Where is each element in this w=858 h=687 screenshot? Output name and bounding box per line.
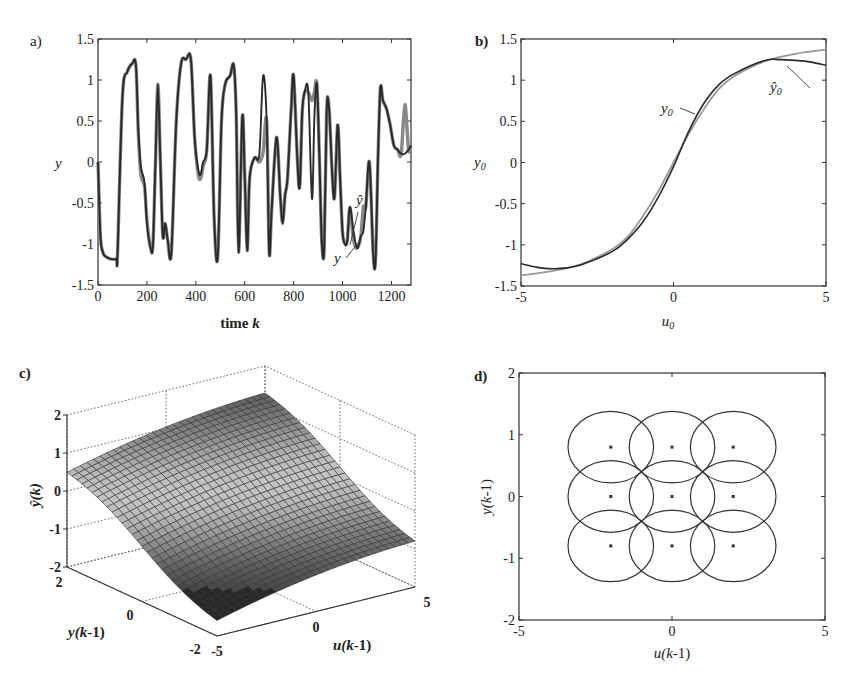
c-ylabel-pre: y( bbox=[66, 624, 81, 641]
z-tick-label: 1 bbox=[54, 446, 61, 461]
panel-a-y-tick-labels: 1.510.50-0.5-1-1.5 bbox=[72, 32, 94, 293]
annotation-y0-label: y0 bbox=[659, 100, 673, 118]
rbf-center-point bbox=[671, 495, 674, 498]
rbf-center-point bbox=[609, 495, 612, 498]
rbf-center-point bbox=[671, 446, 674, 449]
c-xlabel-pre: u( bbox=[333, 637, 347, 654]
y-tick-label: 1 bbox=[508, 428, 515, 443]
panel-d-y-tick-labels: 210-1-2 bbox=[503, 366, 515, 628]
annotation-yhat0-label: ŷ0 bbox=[768, 79, 782, 97]
y-tick-label: 2 bbox=[508, 366, 515, 381]
panel-d-label: d) bbox=[474, 368, 487, 385]
x-tick-label: 1200 bbox=[377, 289, 405, 304]
c-ylabel-suffix: -1) bbox=[87, 624, 105, 641]
u-tick-label: 5 bbox=[424, 595, 431, 610]
y-tick-label: 2 bbox=[56, 575, 63, 590]
y-tick-label: 1.5 bbox=[500, 32, 518, 47]
y-tick-label: -1 bbox=[82, 237, 94, 252]
x-tick-label: 0 bbox=[670, 290, 677, 305]
b-ylabel-base: y bbox=[472, 154, 481, 170]
z-tick-label: -1 bbox=[49, 522, 61, 537]
d-ylabel-suffix: -1) bbox=[478, 479, 495, 497]
y-tick-label: 0.5 bbox=[77, 114, 95, 129]
x-label-var: k bbox=[252, 315, 260, 331]
y-tick-label: 0 bbox=[87, 155, 94, 170]
y-tick-label: 0 bbox=[127, 608, 134, 623]
rbf-center-point bbox=[732, 544, 735, 547]
x-tick-label: 0 bbox=[669, 624, 676, 639]
rbf-center-point bbox=[671, 544, 674, 547]
d-xlabel-pre: u( bbox=[654, 645, 668, 662]
u-tick-label: -5 bbox=[211, 644, 223, 659]
x-tick-label: -5 bbox=[513, 624, 525, 639]
y-tick-label: -0.5 bbox=[72, 196, 94, 211]
figure: a) 1.510.50-0.5-1-1.5 020040060080010001… bbox=[0, 0, 858, 687]
x-label-word: time bbox=[220, 315, 249, 331]
annotation-yhat0-leader bbox=[787, 66, 810, 88]
panel-c-surface-mesh bbox=[67, 393, 415, 620]
series-y0-curve bbox=[521, 50, 826, 276]
y-tick-label: 0 bbox=[510, 156, 517, 171]
d-xlabel-suffix: -1) bbox=[673, 645, 691, 662]
panel-a-label: a) bbox=[30, 33, 42, 50]
y0-subscript: 0 bbox=[668, 107, 673, 118]
panel-d-chart: d) 210-1-2 -505 y(k-1) u(k-1) bbox=[474, 366, 829, 662]
y-tick-label: 1 bbox=[87, 73, 94, 88]
z-tick-label: -2 bbox=[49, 560, 61, 575]
x-tick-label: 5 bbox=[823, 290, 830, 305]
z-tick-label: 2 bbox=[54, 408, 61, 423]
panel-b-chart: b) 1.510.50-0.5-1-1.5 -505 y0 ŷ0 y0 u0 bbox=[472, 32, 830, 331]
panel-a-x-axis-label: time k bbox=[220, 315, 260, 331]
rbf-center-point bbox=[732, 495, 735, 498]
panel-b-x-tick-labels: -505 bbox=[515, 290, 829, 305]
c-xlabel-suffix: -1) bbox=[354, 637, 372, 654]
panel-d-x-tick-labels: -505 bbox=[513, 624, 828, 639]
panel-b-x-axis-label: u0 bbox=[662, 313, 675, 331]
annotation-y0-leader bbox=[680, 108, 695, 114]
x-tick-label: -5 bbox=[515, 290, 527, 305]
panel-a-x-tick-labels: 020040060080010001200 bbox=[95, 289, 406, 304]
panel-d-y-axis-label: y(k-1) bbox=[478, 479, 495, 517]
panel-c-z-axis-label: ŷ(k) bbox=[27, 483, 44, 509]
rbf-center-point bbox=[609, 544, 612, 547]
panel-c-surface-chart: c) 210-1-220-2-505 ŷ(k) y(k-1) u(k-1) bbox=[19, 365, 431, 659]
b-xlabel-subscript: 0 bbox=[669, 320, 674, 331]
y0-base: y bbox=[659, 100, 668, 116]
y-tick-label: 1.5 bbox=[77, 32, 95, 47]
rbf-center-point bbox=[732, 446, 735, 449]
panel-b-y-axis-label: y0 bbox=[472, 154, 486, 172]
panel-a-frame bbox=[98, 39, 411, 285]
x-tick-label: 600 bbox=[234, 289, 255, 304]
panel-b-y-tick-labels: 1.510.50-0.5-1-1.5 bbox=[495, 32, 517, 294]
yhat0-base: ŷ bbox=[768, 79, 777, 95]
x-tick-label: 5 bbox=[822, 624, 829, 639]
panel-c-y-axis-label: y(k-1) bbox=[66, 624, 105, 641]
x-tick-label: 200 bbox=[136, 289, 157, 304]
y-tick-label: 0 bbox=[508, 490, 515, 505]
x-tick-label: 1000 bbox=[329, 289, 357, 304]
y-tick-label: 1 bbox=[510, 73, 517, 88]
d-ylabel-pre: y( bbox=[478, 502, 495, 517]
panel-b-label: b) bbox=[475, 33, 488, 50]
x-tick-label: 0 bbox=[95, 289, 102, 304]
y-tick-label: -1.5 bbox=[72, 278, 94, 293]
annotation-y-label: y bbox=[332, 250, 341, 266]
rbf-center-point bbox=[609, 446, 612, 449]
panel-a-chart: a) 1.510.50-0.5-1-1.5 020040060080010001… bbox=[30, 32, 411, 331]
y-tick-label: -1 bbox=[503, 551, 515, 566]
y-tick-label: -2 bbox=[189, 642, 201, 657]
annotation-yhat-label: ŷ bbox=[354, 192, 363, 208]
y-tick-label: -1 bbox=[505, 238, 517, 253]
b-xlabel-base: u bbox=[662, 313, 670, 329]
series-yhat-line bbox=[98, 54, 411, 269]
x-tick-label: 800 bbox=[283, 289, 304, 304]
panel-a-ticks bbox=[98, 39, 411, 285]
b-ylabel-subscript: 0 bbox=[481, 161, 486, 172]
u-tick-label: 0 bbox=[313, 620, 320, 635]
y-tick-label: 0.5 bbox=[500, 114, 518, 129]
panel-c-label: c) bbox=[19, 365, 31, 382]
x-tick-label: 400 bbox=[185, 289, 206, 304]
y-tick-label: -0.5 bbox=[495, 197, 517, 212]
y-tick-label: -1.5 bbox=[495, 279, 517, 294]
yhat0-subscript: 0 bbox=[777, 86, 782, 97]
